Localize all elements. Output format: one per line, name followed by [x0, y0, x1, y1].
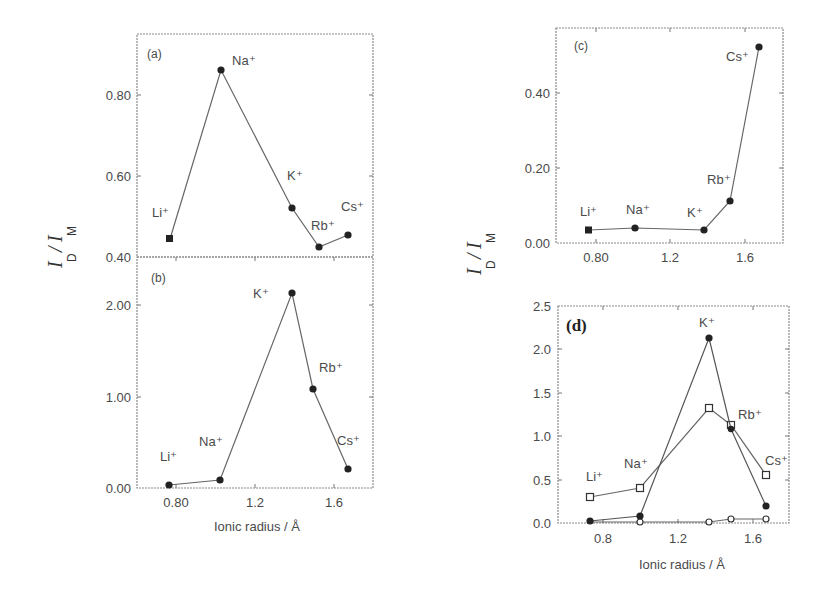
- panel-a-ytick: 0.40: [106, 250, 131, 265]
- svg-text:D: D: [484, 260, 498, 269]
- svg-text:Li⁺: Li⁺: [160, 449, 177, 464]
- svg-text:Rb⁺: Rb⁺: [311, 218, 335, 233]
- panel-b-series-line: [169, 293, 348, 485]
- svg-text:I: I: [463, 267, 485, 276]
- panel-d-open-circle-markers: [637, 516, 769, 525]
- panel-a-yticks: 0.80 0.60 0.40: [106, 88, 373, 265]
- svg-text:K⁺: K⁺: [687, 205, 703, 220]
- panel-a-ytick: 0.80: [106, 88, 131, 103]
- svg-text:Na⁺: Na⁺: [199, 434, 223, 449]
- svg-text:0.80: 0.80: [163, 495, 188, 510]
- svg-text:Li⁺: Li⁺: [152, 205, 169, 220]
- svg-text:Na⁺: Na⁺: [232, 53, 256, 68]
- panel-a: (a) 0.80 0.60 0.40 Li⁺ Na⁺ K⁺ Rb⁺ Cs⁺: [106, 34, 373, 265]
- svg-text:Cs⁺: Cs⁺: [337, 433, 360, 448]
- svg-text:Rb⁺: Rb⁺: [738, 407, 762, 422]
- svg-text:1.2: 1.2: [661, 250, 679, 265]
- panel-d: (d) 2.5 2.0 1.5 1.0 0.5 0.0 0.8 1.2: [533, 299, 789, 572]
- panel-d-series-filled-circles-line: [590, 338, 766, 521]
- svg-text:1.0: 1.0: [533, 429, 551, 444]
- svg-text:/: /: [44, 244, 66, 253]
- svg-text:1.6: 1.6: [325, 495, 343, 510]
- svg-text:1.6: 1.6: [736, 250, 754, 265]
- svg-text:Li⁺: Li⁺: [586, 469, 603, 484]
- panel-b-x-axis-title: Ionic radius / Å: [214, 519, 300, 534]
- panel-c: (c) 0.40 0.20 0.00 0.80 1.2 1.6: [525, 28, 783, 265]
- svg-text:I: I: [44, 234, 66, 243]
- svg-text:0.80: 0.80: [583, 250, 608, 265]
- svg-text:Na⁺: Na⁺: [626, 202, 650, 217]
- svg-text:2.0: 2.0: [533, 342, 551, 357]
- panel-c-markers: [585, 43, 763, 233]
- panel-d-label: (d): [566, 316, 587, 335]
- svg-text:D: D: [65, 253, 79, 262]
- svg-text:I: I: [463, 241, 485, 250]
- panel-a-ytick: 0.60: [106, 169, 131, 184]
- svg-text:/: /: [463, 251, 485, 260]
- svg-text:Cs⁺: Cs⁺: [726, 49, 749, 64]
- panel-d-ion-labels: Li⁺ Na⁺ K⁺ Rb⁺ Cs⁺: [586, 315, 788, 484]
- svg-text:Na⁺: Na⁺: [624, 456, 648, 471]
- svg-text:K⁺: K⁺: [699, 315, 715, 330]
- svg-text:0.00: 0.00: [525, 236, 550, 251]
- right-y-axis-title: I D / I M: [463, 233, 498, 276]
- panel-c-series-line: [589, 47, 759, 230]
- svg-text:0.5: 0.5: [533, 473, 551, 488]
- svg-text:2.00: 2.00: [106, 298, 131, 313]
- panel-d-filled-circle-markers: [586, 334, 769, 524]
- svg-text:Rb⁺: Rb⁺: [707, 172, 731, 187]
- svg-text:M: M: [65, 226, 79, 236]
- svg-text:Cs⁺: Cs⁺: [341, 199, 364, 214]
- panel-d-xticks: 0.8 1.2 1.6: [594, 306, 762, 546]
- svg-text:M: M: [484, 233, 498, 243]
- svg-text:2.5: 2.5: [533, 299, 551, 314]
- svg-text:0.40: 0.40: [525, 86, 550, 101]
- panel-a-label: (a): [147, 47, 162, 61]
- panel-c-label: (c): [574, 39, 588, 53]
- svg-text:1.00: 1.00: [106, 390, 131, 405]
- figure: (a) 0.80 0.60 0.40 Li⁺ Na⁺ K⁺ Rb⁺ Cs⁺: [0, 0, 834, 599]
- panel-b-label: (b): [151, 271, 166, 285]
- svg-text:0.20: 0.20: [525, 161, 550, 176]
- svg-text:Li⁺: Li⁺: [580, 204, 597, 219]
- svg-text:1.5: 1.5: [533, 386, 551, 401]
- svg-text:K⁺: K⁺: [287, 168, 303, 183]
- svg-text:I: I: [44, 260, 66, 269]
- panel-b-markers: [165, 289, 351, 488]
- svg-text:0.0: 0.0: [533, 516, 551, 531]
- panel-c-ion-labels: Li⁺ Na⁺ K⁺ Rb⁺ Cs⁺: [580, 49, 749, 220]
- svg-text:K⁺: K⁺: [253, 286, 269, 301]
- svg-text:1.6: 1.6: [744, 531, 762, 546]
- svg-text:Rb⁺: Rb⁺: [319, 360, 343, 375]
- panel-b: (b) 2.00 1.00 0.00 0.80 1.2 1.6: [106, 257, 373, 534]
- left-y-axis-title: I D / I M: [44, 226, 79, 269]
- panel-d-x-axis-title: Ionic radius / Å: [639, 557, 725, 572]
- svg-text:0.00: 0.00: [106, 481, 131, 496]
- svg-text:0.8: 0.8: [594, 531, 612, 546]
- panel-b-yticks: 2.00 1.00 0.00: [106, 298, 373, 496]
- panel-c-yticks: 0.40 0.20 0.00: [525, 86, 783, 251]
- svg-text:1.2: 1.2: [246, 495, 264, 510]
- svg-text:1.2: 1.2: [669, 531, 687, 546]
- svg-text:Cs⁺: Cs⁺: [765, 453, 788, 468]
